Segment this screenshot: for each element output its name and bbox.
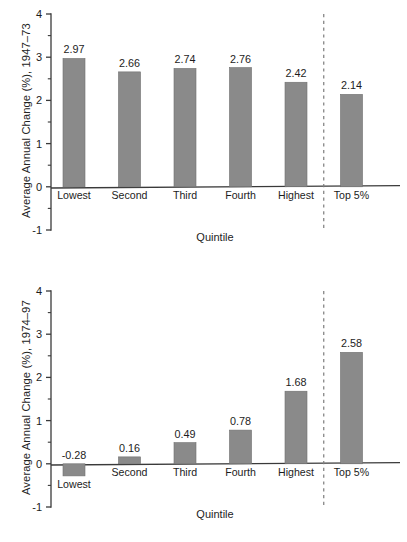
y-tick-label: 0 <box>36 181 42 193</box>
bar-lowest[interactable] <box>63 58 85 186</box>
bar-fourth[interactable] <box>230 68 252 187</box>
x-category-label: Top 5% <box>334 466 370 478</box>
chart-panel-top: Average Annual Change (%), 1947–73 43210… <box>0 0 407 271</box>
bar-value-label: 1.68 <box>285 376 306 388</box>
bar-top-5[interactable] <box>341 94 363 186</box>
y-tick-label: -1 <box>32 224 42 236</box>
chart-panel-bottom: Average Annual Change (%), 1974–97 43210… <box>0 271 407 542</box>
bar-value-label: 2.42 <box>285 67 306 79</box>
bar-value-label: 2.66 <box>119 57 140 69</box>
bar-value-label: 2.14 <box>341 79 362 91</box>
bar-fourth[interactable] <box>230 430 252 464</box>
bar-highest[interactable] <box>285 82 307 187</box>
bar-third[interactable] <box>174 443 196 464</box>
bar-second[interactable] <box>119 72 141 187</box>
bar-second[interactable] <box>119 457 141 464</box>
x-category-label: Lowest <box>57 189 91 201</box>
bar-chart-top: 43210-12.97Lowest2.66Second2.74Third2.76… <box>0 0 407 271</box>
y-tick-label: -1 <box>32 501 42 513</box>
x-category-label: Top 5% <box>334 189 370 201</box>
bar-value-label: 2.58 <box>341 337 362 349</box>
x-category-label: Lowest <box>57 478 91 490</box>
x-category-label: Second <box>112 466 148 478</box>
y-tick-label: 1 <box>36 415 42 427</box>
x-axis-title: Quintile <box>196 231 233 243</box>
y-tick-label: 0 <box>36 458 42 470</box>
bar-value-label: 2.74 <box>174 53 195 65</box>
bar-lowest[interactable] <box>63 464 85 476</box>
bar-third[interactable] <box>174 68 196 186</box>
bar-value-label: -0.28 <box>62 449 87 461</box>
y-tick-label: 1 <box>36 138 42 150</box>
x-category-label: Third <box>173 466 197 478</box>
bar-highest[interactable] <box>285 391 307 464</box>
y-tick-label: 2 <box>36 371 42 383</box>
bar-value-label: 2.76 <box>230 53 251 65</box>
bar-value-label: 0.16 <box>119 442 140 454</box>
bar-value-label: 0.49 <box>174 428 195 440</box>
x-category-label: Highest <box>278 189 314 201</box>
x-category-label: Second <box>112 189 148 201</box>
x-category-label: Fourth <box>225 189 256 201</box>
y-tick-label: 4 <box>36 8 42 20</box>
y-tick-label: 3 <box>36 328 42 340</box>
y-tick-label: 2 <box>36 94 42 106</box>
x-category-label: Highest <box>278 466 314 478</box>
x-category-label: Fourth <box>225 466 256 478</box>
x-category-label: Third <box>173 189 197 201</box>
bar-value-label: 0.78 <box>230 415 251 427</box>
x-axis-title: Quintile <box>196 508 233 520</box>
y-tick-label: 3 <box>36 51 42 63</box>
y-tick-label: 4 <box>36 285 42 297</box>
bar-value-label: 2.97 <box>63 43 84 55</box>
bar-chart-bottom: 43210-1-0.28Lowest0.16Second0.49Third0.7… <box>0 271 407 542</box>
bar-top-5[interactable] <box>341 352 363 463</box>
